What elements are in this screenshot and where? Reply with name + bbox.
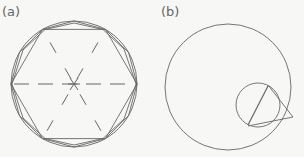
- panel-b-figure: [165, 24, 293, 150]
- panel-b-outer-circle: [165, 24, 291, 150]
- panel-a-center-mark: [68, 78, 80, 90]
- panel-b-tangent-lower: [248, 117, 293, 126]
- diagram-canvas: [0, 0, 304, 157]
- panel-a-figure: [11, 21, 137, 147]
- panel-b-chord: [248, 86, 268, 125]
